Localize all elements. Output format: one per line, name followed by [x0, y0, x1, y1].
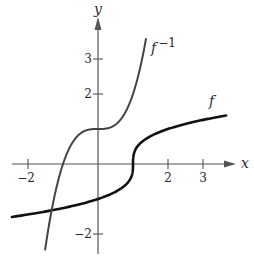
ticks: [28, 59, 203, 234]
curve-f-inverse: [45, 39, 146, 250]
label-f: f: [208, 93, 217, 109]
axes: [12, 17, 236, 254]
x-tick-label: 2: [164, 171, 172, 185]
y-tick-label: −2: [74, 227, 92, 241]
y-tick-label: 3: [84, 52, 92, 66]
label-f-inverse: f−1: [150, 36, 176, 56]
y-axis-arrow-icon: [95, 17, 102, 30]
x-axis-arrow-icon: [224, 161, 236, 168]
x-tick-label: 3: [199, 171, 207, 185]
y-tick-label: 2: [84, 87, 92, 101]
x-tick-label: −2: [17, 171, 35, 185]
curve-f: [12, 116, 226, 217]
x-axis-label: x: [241, 155, 249, 171]
y-axis-label: y: [93, 1, 103, 17]
function-inverse-graph: −22332−2 x y f f−1: [0, 0, 254, 261]
